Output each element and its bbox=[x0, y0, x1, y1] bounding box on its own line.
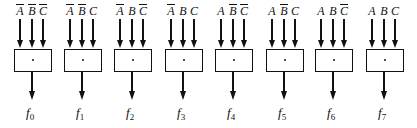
output-subscript: 5 bbox=[282, 112, 287, 122]
arrowhead-icon bbox=[129, 91, 135, 100]
output-arrow bbox=[332, 71, 334, 92]
and-gate-box bbox=[114, 49, 152, 72]
input-arrow bbox=[371, 19, 373, 41]
input-arrow bbox=[294, 19, 296, 41]
output-arrow bbox=[31, 71, 33, 92]
and-block-6: ABCf6 bbox=[315, 0, 365, 128]
and-block-0: ABCf0 bbox=[14, 0, 64, 128]
arrowhead-icon bbox=[218, 40, 224, 48]
arrowhead-icon bbox=[117, 40, 123, 48]
input-arrow bbox=[193, 19, 195, 41]
arrowhead-icon bbox=[381, 40, 387, 48]
output-arrow bbox=[283, 71, 285, 92]
and-block-1: ABCf1 bbox=[64, 0, 114, 128]
output-subscript: 2 bbox=[130, 112, 135, 122]
arrowhead-icon bbox=[17, 40, 23, 48]
arrowhead-icon bbox=[168, 40, 174, 48]
input-arrow bbox=[119, 19, 121, 41]
input-arrow bbox=[394, 19, 396, 41]
and-gate-box bbox=[14, 49, 52, 72]
and-operator-dot-icon bbox=[82, 59, 84, 61]
output-subscript: 3 bbox=[181, 112, 186, 122]
input-arrow bbox=[42, 19, 44, 41]
output-subscript: 1 bbox=[80, 112, 85, 122]
and-operator-dot-icon bbox=[333, 59, 335, 61]
input-arrow bbox=[131, 19, 133, 41]
and-block-3: ABCf3 bbox=[165, 0, 215, 128]
arrowhead-icon bbox=[40, 40, 46, 48]
arrowhead-icon bbox=[129, 40, 135, 48]
output-subscript: 0 bbox=[30, 112, 35, 122]
input-arrow bbox=[343, 19, 345, 41]
input-arrow bbox=[182, 19, 184, 41]
input-label-c: C bbox=[389, 4, 401, 18]
and-gate-box bbox=[366, 49, 404, 72]
arrowhead-icon bbox=[330, 40, 336, 48]
and-operator-dot-icon bbox=[233, 59, 235, 61]
input-label-a: A bbox=[366, 4, 378, 18]
and-gate-box bbox=[165, 49, 203, 72]
output-subscript: 7 bbox=[382, 112, 387, 122]
input-arrow bbox=[320, 19, 322, 41]
output-label: f5 bbox=[278, 106, 286, 124]
input-label-c-bar: C bbox=[238, 4, 250, 18]
arrowhead-icon bbox=[381, 91, 387, 100]
output-label: f1 bbox=[76, 106, 84, 124]
and-gate-box bbox=[64, 49, 102, 72]
and-gate-box bbox=[266, 49, 304, 72]
output-label: f2 bbox=[126, 106, 134, 124]
arrowhead-icon bbox=[341, 40, 347, 48]
arrowhead-icon bbox=[67, 40, 73, 48]
input-arrow bbox=[271, 19, 273, 41]
and-block-5: ABCf5 bbox=[266, 0, 316, 128]
arrowhead-icon bbox=[230, 40, 236, 48]
input-label-a: A bbox=[315, 4, 327, 18]
arrowhead-icon bbox=[281, 91, 287, 100]
input-label-c: C bbox=[188, 4, 200, 18]
arrowhead-icon bbox=[140, 40, 146, 48]
arrowhead-icon bbox=[29, 40, 35, 48]
arrowhead-icon bbox=[281, 40, 287, 48]
output-arrow bbox=[383, 71, 385, 92]
input-label-a-bar: A bbox=[165, 4, 177, 18]
input-arrow bbox=[243, 19, 245, 41]
and-operator-dot-icon bbox=[384, 59, 386, 61]
arrowhead-icon bbox=[180, 40, 186, 48]
and-block-7: ABCf7 bbox=[366, 0, 416, 128]
input-label-a-bar: A bbox=[114, 4, 126, 18]
and-block-4: ABCf4 bbox=[215, 0, 265, 128]
output-arrow bbox=[131, 71, 133, 92]
input-arrow bbox=[19, 19, 21, 41]
input-label-c: C bbox=[87, 4, 99, 18]
and-operator-dot-icon bbox=[132, 59, 134, 61]
and-block-2: ABCf2 bbox=[114, 0, 164, 128]
input-arrow bbox=[81, 19, 83, 41]
and-gate-box bbox=[315, 49, 353, 72]
input-label-c-bar: C bbox=[137, 4, 149, 18]
input-arrow bbox=[92, 19, 94, 41]
arrowhead-icon bbox=[90, 40, 96, 48]
arrowhead-icon bbox=[318, 40, 324, 48]
input-arrow bbox=[332, 19, 334, 41]
input-arrow bbox=[31, 19, 33, 41]
output-subscript: 6 bbox=[331, 112, 336, 122]
input-arrow bbox=[142, 19, 144, 41]
input-label-a-bar: A bbox=[64, 4, 76, 18]
input-arrow bbox=[170, 19, 172, 41]
output-label: f6 bbox=[327, 106, 335, 124]
and-operator-dot-icon bbox=[284, 59, 286, 61]
arrowhead-icon bbox=[79, 40, 85, 48]
input-label-a-bar: A bbox=[14, 4, 26, 18]
output-arrow bbox=[81, 71, 83, 92]
input-arrow bbox=[220, 19, 222, 41]
arrowhead-icon bbox=[79, 91, 85, 100]
output-label: f0 bbox=[26, 106, 34, 124]
output-subscript: 4 bbox=[231, 112, 236, 122]
input-arrow bbox=[283, 19, 285, 41]
input-label-a: A bbox=[215, 4, 227, 18]
arrowhead-icon bbox=[191, 40, 197, 48]
arrowhead-icon bbox=[180, 91, 186, 100]
output-arrow bbox=[232, 71, 234, 92]
output-label: f7 bbox=[378, 106, 386, 124]
output-label: f4 bbox=[227, 106, 235, 124]
